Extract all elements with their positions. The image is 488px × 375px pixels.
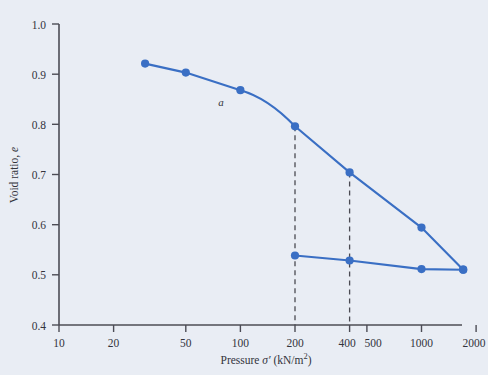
data-point-rebound-1 bbox=[291, 251, 299, 259]
x-tick-label-50: 50 bbox=[180, 337, 192, 349]
x-tick-label-10: 10 bbox=[53, 337, 65, 349]
x-tick-label-20: 20 bbox=[108, 337, 120, 349]
y-tick-label-1-0: 1.0 bbox=[32, 19, 47, 31]
data-point-virgin-6 bbox=[417, 224, 425, 232]
y-axis-title-text: Void ratio, bbox=[8, 152, 21, 203]
x-axis-title-close: ) bbox=[308, 354, 312, 367]
data-point-rebound-3 bbox=[417, 265, 425, 273]
data-point-virgin-3 bbox=[236, 86, 244, 94]
y-tick-label-0-8: 0.8 bbox=[32, 119, 47, 131]
x-tick-label-1000: 1000 bbox=[410, 337, 433, 349]
data-point-rebound-4 bbox=[459, 266, 467, 274]
chart-background bbox=[0, 0, 488, 375]
x-tick-label-400: 400 bbox=[338, 337, 356, 349]
chart-figure: 1.0 0.9 0.8 0.7 0.6 0.5 0.4 10 20 50 100… bbox=[0, 0, 488, 375]
y-tick-label-0-4: 0.4 bbox=[32, 320, 47, 332]
y-tick-label-0-5: 0.5 bbox=[32, 269, 47, 281]
data-point-virgin-1 bbox=[141, 60, 149, 68]
data-point-rebound-2 bbox=[346, 256, 354, 264]
x-tick-label-2000: 2000 bbox=[463, 337, 486, 349]
void-ratio-pressure-chart: 1.0 0.9 0.8 0.7 0.6 0.5 0.4 10 20 50 100… bbox=[0, 0, 488, 375]
data-point-virgin-5 bbox=[346, 168, 354, 176]
y-tick-label-0-7: 0.7 bbox=[32, 169, 47, 181]
x-axis-title-prefix: Pressure bbox=[220, 354, 262, 366]
y-tick-label-0-9: 0.9 bbox=[32, 69, 47, 81]
y-axis-title: Void ratio, e bbox=[8, 147, 21, 203]
x-tick-label-100: 100 bbox=[232, 337, 250, 349]
x-tick-label-200: 200 bbox=[286, 337, 304, 349]
data-point-virgin-4 bbox=[291, 122, 299, 130]
x-axis-title: Pressure σ′ (kN/m2) bbox=[220, 351, 311, 367]
y-tick-label-0-6: 0.6 bbox=[32, 219, 47, 231]
annotation-a: a bbox=[218, 96, 224, 108]
y-axis-title-symbol: e bbox=[8, 147, 20, 152]
data-point-virgin-2 bbox=[182, 69, 190, 77]
x-axis-title-units: (kN/m bbox=[271, 354, 304, 367]
x-tick-label-500: 500 bbox=[364, 337, 382, 349]
